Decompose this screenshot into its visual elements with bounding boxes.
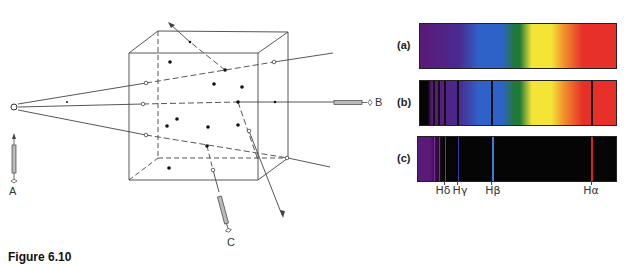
- spectrum-label-b: (b): [397, 96, 411, 108]
- telescope-b: [334, 100, 372, 106]
- absorption-line-h-alpha: [591, 81, 593, 125]
- absorption-line: [438, 81, 440, 125]
- absorption-line-h-delta: [444, 81, 446, 125]
- spectrum-absorption: [419, 80, 617, 126]
- eye-icon: [368, 100, 372, 106]
- spectrum-label-a: (a): [397, 39, 410, 51]
- telescope-a: [11, 138, 17, 183]
- cloud-diagram: [0, 0, 400, 258]
- light-source-icon: [11, 104, 17, 110]
- emission-line: [439, 137, 440, 181]
- absorption-line-h-beta: [491, 81, 493, 125]
- emission-line-h-alpha: [591, 137, 593, 181]
- spectrum-emission: [417, 136, 617, 182]
- label-h-alpha: Hα: [583, 184, 599, 197]
- observer-label-c: C: [227, 236, 235, 248]
- label-h-delta: Hδ: [435, 184, 450, 197]
- cube-front-face: [129, 53, 258, 180]
- observer-label-a: A: [9, 185, 16, 197]
- cube-bottom-left-depth-edge: [129, 158, 158, 180]
- eye-icon: [11, 179, 17, 183]
- label-h-gamma: Hγ: [453, 184, 468, 197]
- label-h-beta: Hβ: [485, 184, 500, 197]
- emission-line-h-beta: [492, 137, 494, 181]
- figure-caption: Figure 6.10: [8, 250, 71, 264]
- observer-label-b: B: [375, 96, 382, 108]
- eye-icon: [225, 228, 232, 233]
- spectrum-label-c: (c): [397, 152, 410, 164]
- arrowhead-icon: [280, 210, 285, 218]
- absorption-line: [433, 81, 435, 125]
- spectrum-continuous: [419, 23, 617, 69]
- absorption-line-h-gamma: [457, 81, 459, 125]
- emission-line-h-gamma: [458, 137, 459, 181]
- emission-line: [434, 137, 435, 181]
- telescope-c: [216, 196, 231, 233]
- emission-line-h-delta: [445, 137, 446, 181]
